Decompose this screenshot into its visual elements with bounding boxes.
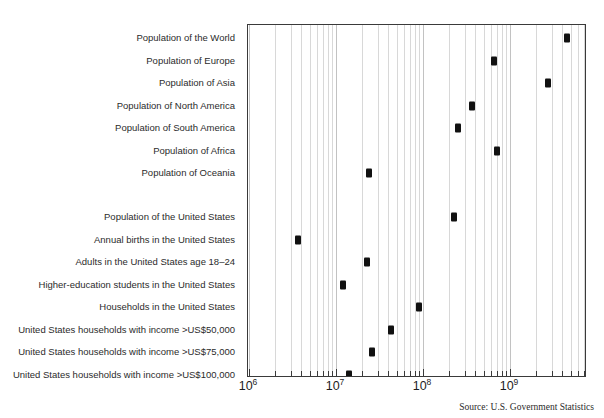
tick-minor: [449, 371, 450, 376]
tick-minor: [388, 371, 389, 376]
gridline-minor: [502, 25, 503, 376]
category-label-households-income-50k: United States households with income >US…: [18, 324, 235, 335]
gridline-minor: [475, 25, 476, 376]
tick-minor: [328, 371, 329, 376]
tick-minor: [497, 371, 498, 376]
data-marker: [295, 236, 301, 245]
tick-minor: [362, 371, 363, 376]
tick-minor: [552, 371, 553, 376]
x-tick-base-1e8: 10: [413, 379, 427, 393]
gridline-minor: [506, 25, 507, 376]
category-label-population-north-america: Population of North America: [117, 100, 235, 111]
category-label-adults-18-24: Adults in the United States age 18–24: [75, 256, 235, 267]
x-tick-exp-1e7: 7: [340, 377, 345, 387]
tick-minor: [491, 371, 492, 376]
category-label-households: Households in the United States: [99, 301, 235, 312]
data-marker: [364, 258, 370, 267]
x-axis-tick-labels: 106 107 108 109: [0, 379, 604, 399]
x-tick-base-1e7: 10: [326, 379, 340, 393]
x-tick-label-1e7: 107: [326, 379, 345, 393]
data-marker: [545, 79, 551, 88]
gridline-minor: [571, 25, 572, 376]
category-label-population-united-states: Population of the United States: [104, 211, 235, 222]
x-tick-label-1e9: 109: [500, 379, 519, 393]
gridline-minor: [301, 25, 302, 376]
chart-figure: Population of the World Population of Eu…: [0, 0, 604, 418]
plot-area: [247, 24, 586, 377]
tick-minor: [484, 371, 485, 376]
category-axis-labels: Population of the World Population of Eu…: [0, 24, 243, 377]
gridline-minor: [419, 25, 420, 376]
tick-minor: [475, 371, 476, 376]
gridline-minor: [323, 25, 324, 376]
category-label-population-europe: Population of Europe: [146, 55, 235, 66]
tick-minor: [578, 371, 579, 376]
category-label-higher-education-students: Higher-education students in the United …: [39, 279, 235, 290]
data-marker: [491, 57, 497, 66]
tick-minor: [310, 371, 311, 376]
category-label-annual-births: Annual births in the United States: [94, 234, 235, 245]
data-marker: [469, 102, 475, 111]
tick-minor: [419, 371, 420, 376]
tick-minor: [502, 371, 503, 376]
tick-major: [249, 369, 250, 376]
gridline-minor: [497, 25, 498, 376]
gridline-minor: [491, 25, 492, 376]
data-marker: [451, 213, 457, 222]
tick-minor: [397, 371, 398, 376]
tick-minor: [275, 371, 276, 376]
gridline-minor: [465, 25, 466, 376]
tick-minor: [506, 371, 507, 376]
gridline-minor: [410, 25, 411, 376]
x-tick-exp-1e6: 6: [253, 377, 258, 387]
gridline-minor: [552, 25, 553, 376]
category-label-households-income-100k: United States households with income >US…: [13, 369, 235, 380]
tick-minor: [332, 371, 333, 376]
data-marker: [564, 34, 570, 43]
data-marker: [369, 348, 375, 357]
gridline-minor: [317, 25, 318, 376]
gridline-minor: [562, 25, 563, 376]
tick-minor: [536, 371, 537, 376]
tick-minor: [562, 371, 563, 376]
category-label-population-world: Population of the World: [136, 32, 235, 43]
tick-major: [336, 369, 337, 376]
gridline-minor: [404, 25, 405, 376]
gridline-minor: [415, 25, 416, 376]
data-marker: [340, 281, 346, 290]
gridline-minor: [328, 25, 329, 376]
source-note: Source: U.S. Government Statistics: [459, 402, 594, 412]
gridline-minor: [449, 25, 450, 376]
data-marker: [416, 303, 422, 312]
data-marker: [346, 371, 352, 378]
gridline-minor: [584, 25, 585, 376]
x-tick-exp-1e8: 8: [427, 377, 432, 387]
tick-major: [423, 369, 424, 376]
gridline-minor: [291, 25, 292, 376]
tick-minor: [584, 371, 585, 376]
data-marker: [494, 147, 500, 156]
gridline-minor: [578, 25, 579, 376]
category-label-population-asia: Population of Asia: [159, 77, 235, 88]
data-marker: [366, 169, 372, 178]
tick-minor: [291, 371, 292, 376]
x-tick-exp-1e9: 9: [514, 377, 519, 387]
gridline-minor: [275, 25, 276, 376]
gridline-major: [336, 25, 337, 376]
tick-minor: [378, 371, 379, 376]
tick-minor: [571, 371, 572, 376]
category-label-population-africa: Population of Africa: [153, 145, 235, 156]
category-label-population-oceania: Population of Oceania: [142, 167, 235, 178]
category-label-population-south-america: Population of South America: [115, 122, 235, 133]
tick-minor: [404, 371, 405, 376]
tick-minor: [410, 371, 411, 376]
gridline-major: [423, 25, 424, 376]
gridline-minor: [536, 25, 537, 376]
gridline-minor: [332, 25, 333, 376]
category-label-households-income-75k: United States households with income >US…: [18, 346, 235, 357]
tick-minor: [323, 371, 324, 376]
tick-major: [510, 369, 511, 376]
gridline-major: [510, 25, 511, 376]
tick-minor: [301, 371, 302, 376]
data-marker: [388, 326, 394, 335]
